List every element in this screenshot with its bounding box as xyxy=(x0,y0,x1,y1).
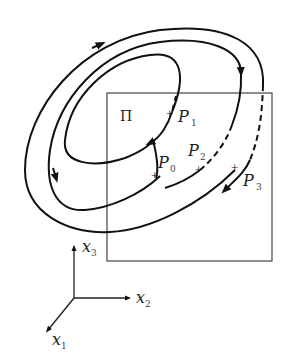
svg-text:P: P xyxy=(242,171,254,190)
svg-text:+: + xyxy=(231,160,238,175)
svg-text:1: 1 xyxy=(61,341,67,351)
svg-text:x: x xyxy=(136,288,145,307)
svg-text:P: P xyxy=(187,141,199,160)
x1-axis xyxy=(48,298,74,330)
poincare-diagram: Π + P 0 + P 1 + P 2 + P 3 xyxy=(0,0,287,360)
point-p2: + P 2 xyxy=(187,141,206,177)
svg-text:P: P xyxy=(157,153,169,172)
axis-triad xyxy=(48,248,128,330)
plane-label: Π xyxy=(120,108,132,124)
axis-label-x2: x 2 xyxy=(136,288,151,309)
point-p0: + P 0 xyxy=(151,153,176,183)
svg-text:1: 1 xyxy=(191,118,197,128)
svg-text:2: 2 xyxy=(145,299,151,309)
svg-text:x: x xyxy=(52,330,61,349)
svg-text:0: 0 xyxy=(170,164,176,174)
svg-text:3: 3 xyxy=(91,248,97,258)
svg-text:+: + xyxy=(166,106,173,121)
svg-text:3: 3 xyxy=(256,182,262,192)
svg-text:x: x xyxy=(82,237,91,256)
svg-text:P: P xyxy=(177,107,189,126)
axis-label-x1: x 1 xyxy=(52,330,67,351)
axis-label-x3: x 3 xyxy=(82,237,97,258)
svg-text:2: 2 xyxy=(200,152,206,162)
svg-text:+: + xyxy=(195,162,202,177)
point-p1: + P 1 xyxy=(166,106,197,128)
